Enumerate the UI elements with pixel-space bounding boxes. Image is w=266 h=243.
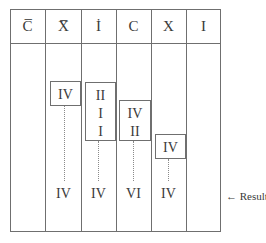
box-line: II <box>130 123 139 141</box>
box-column-2: IV <box>50 81 81 106</box>
header-i-dot: İ <box>81 9 116 43</box>
header-c-bar: C̅ <box>10 9 45 43</box>
box-column-3: II I I <box>85 82 116 141</box>
dotted-connector <box>64 106 65 181</box>
dotted-connector <box>168 159 169 181</box>
dotted-connector <box>98 141 99 181</box>
result-column-3: IV <box>81 186 116 202</box>
header-c: C <box>116 9 151 43</box>
box-line: IV <box>128 105 143 123</box>
result-column-2: IV <box>46 186 81 202</box>
header-x: X <box>151 9 186 43</box>
box-column-5: IV <box>155 134 186 159</box>
dotted-connector <box>133 141 134 181</box>
header-x-bar: X̅ <box>46 9 81 43</box>
result-column-5: IV <box>151 186 186 202</box>
box-line: I <box>98 105 103 123</box>
box-line: IV <box>163 139 178 157</box>
box-column-4: IV II <box>119 100 151 141</box>
header-i: I <box>186 9 221 43</box>
box-line: I <box>98 123 103 141</box>
box-line: IV <box>58 86 73 104</box>
result-label: ← Result <box>226 190 266 202</box>
result-column-4: VI <box>116 186 151 202</box>
box-line: II <box>96 87 105 105</box>
